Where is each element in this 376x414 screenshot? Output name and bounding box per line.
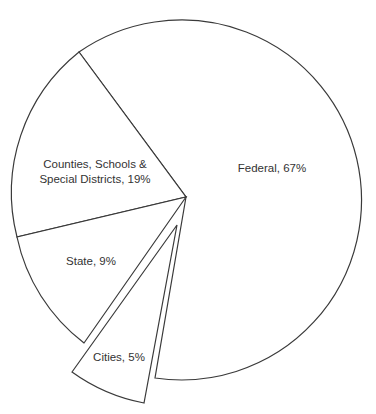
- label-federal: Federal, 67%: [238, 162, 306, 174]
- label-cities: Cities, 5%: [93, 351, 145, 363]
- label-state: State, 9%: [66, 255, 116, 267]
- label-counties-line2: Special Districts, 19%: [39, 173, 150, 185]
- label-counties-line1: Counties, Schools &: [43, 158, 147, 170]
- pie-chart: Federal, 67% Counties, Schools & Special…: [0, 0, 376, 414]
